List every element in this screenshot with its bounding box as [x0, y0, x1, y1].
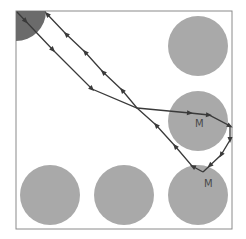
obstacle-circle-bottom-left: [20, 165, 80, 225]
obstacle-circle-bottom-right: [168, 165, 228, 225]
trajectory-diagram: MM: [0, 0, 246, 239]
obstacle-label-m: M: [204, 178, 213, 189]
obstacle-circle-bottom-middle: [94, 165, 154, 225]
obstacle-label-m: M: [195, 118, 204, 129]
obstacle-circle-top-right: [168, 16, 228, 76]
